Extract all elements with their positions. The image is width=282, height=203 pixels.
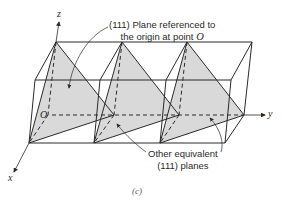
origin-label: O [40,110,47,120]
figure-caption: (c) [132,187,142,196]
plane-fills [29,42,244,143]
x-axis-label: x [8,173,12,183]
unit-cell-diagram: z y x O (111) Plane referenced to the or… [0,0,282,203]
callout-equivalent-planes-line2: (111) planes [148,161,218,171]
callout-reference-plane-line2: the origin at point O [109,32,215,43]
callout-reference-plane-line1: (111) Plane referenced to [109,20,215,30]
callout-reference-plane: (111) Plane referenced to the origin at … [109,20,215,42]
z-axis-label: z [57,9,61,19]
callout-equivalent-planes: Other equivalent (111) planes [148,149,218,170]
y-axis-label: y [268,109,272,119]
callout-equivalent-planes-line1: Other equivalent [148,149,218,159]
